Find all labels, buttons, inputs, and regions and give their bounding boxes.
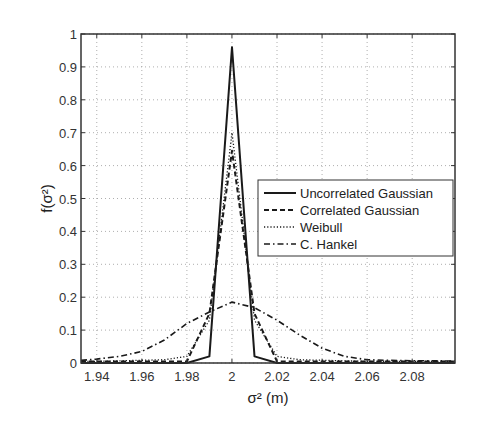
x-axis-label: σ² (m)	[248, 389, 289, 406]
x-tick-label: 2.08	[400, 369, 425, 384]
legend-label: Weibull	[300, 220, 343, 235]
x-tick-label: 1.94	[84, 369, 109, 384]
y-tick-label: 0.6	[59, 159, 77, 174]
x-tick-label: 2	[228, 369, 235, 384]
y-axis-label: f(σ²)	[38, 184, 55, 212]
legend-label: Correlated Gaussian	[300, 203, 419, 218]
y-tick-label: 0.3	[59, 257, 77, 272]
x-tick-label: 2.02	[264, 369, 289, 384]
x-tick-label: 1.98	[174, 369, 199, 384]
y-tick-label: 0.1	[59, 323, 77, 338]
x-tick-label: 2.06	[354, 369, 379, 384]
y-tick-label: 0.5	[59, 192, 77, 207]
y-tick-label: 0.4	[59, 224, 77, 239]
x-tick-label: 2.04	[309, 369, 334, 384]
y-tick-label: 1	[70, 27, 77, 42]
y-tick-label: 0	[70, 356, 77, 371]
legend: Uncorrelated GaussianCorrelated Gaussian…	[258, 180, 453, 256]
y-tick-label: 0.7	[59, 126, 77, 141]
x-tick-label: 1.96	[129, 369, 154, 384]
y-tick-label: 0.9	[59, 60, 77, 75]
y-tick-label: 0.8	[59, 93, 77, 108]
line-chart: 1.941.961.9822.022.042.062.0800.10.20.30…	[0, 0, 480, 427]
y-tick-label: 0.2	[59, 290, 77, 305]
legend-label: C. Hankel	[300, 237, 357, 252]
legend-label: Uncorrelated Gaussian	[300, 186, 433, 201]
